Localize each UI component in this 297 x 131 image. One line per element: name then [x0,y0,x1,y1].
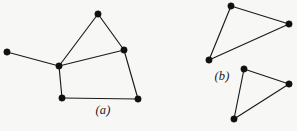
graph-vertex [95,11,101,17]
graph-edge [7,52,59,66]
graph-vertex [241,66,247,72]
graph-edge [234,84,289,119]
panel-caption-b: (b) [214,69,229,84]
graph-edge [244,69,289,84]
graph-vertex [121,47,127,53]
graph-vertex [59,95,65,101]
graph-vertex [231,116,237,122]
graph-edge [62,98,138,99]
graph-edge [98,14,124,50]
edges-layer [7,6,289,119]
graph-vertex [228,3,234,9]
graph-edge [234,69,244,119]
graph-canvas [0,0,297,131]
graph-edge [124,50,138,99]
graph-vertex [56,63,62,69]
graph-edge [59,66,62,98]
graph-vertex [206,57,212,63]
figure-container: (a) (b) [0,0,297,131]
panel-caption-a: (a) [95,103,110,118]
graph-vertex [4,49,10,55]
graph-vertex [135,96,141,102]
graph-vertex [286,81,292,87]
graph-vertex [286,21,292,27]
graph-edge [231,6,289,24]
